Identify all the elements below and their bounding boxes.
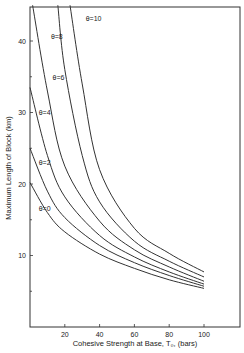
svg-text:40: 40 <box>96 331 104 338</box>
svg-text:80: 80 <box>165 331 173 338</box>
svg-text:30: 30 <box>18 109 26 116</box>
curve-label: θ=4 <box>39 109 51 116</box>
curve-θ=8 <box>58 5 204 277</box>
svg-text:10: 10 <box>18 252 26 259</box>
svg-text:40: 40 <box>18 38 26 45</box>
curve-labels: θ=0θ=2θ=4θ=6θ=8θ=10 <box>39 15 102 212</box>
svg-text:60: 60 <box>131 331 139 338</box>
curve-label: θ=2 <box>39 159 51 166</box>
axis-ticks: 2040608010010203040 <box>18 38 210 339</box>
plot-frame <box>30 7 240 327</box>
curve-label: θ=0 <box>39 205 51 212</box>
svg-text:20: 20 <box>61 331 69 338</box>
curve-θ=6 <box>33 5 204 281</box>
y-axis-label-text: Maximum Length of Block (km) <box>4 116 13 219</box>
curve-label: θ=10 <box>86 15 102 22</box>
svg-text:20: 20 <box>18 181 26 188</box>
curve-θ=0 <box>30 183 204 289</box>
curves <box>30 5 204 288</box>
chart-plot: 2040608010010203040 θ=0θ=2θ=4θ=6θ=8θ=10 <box>0 0 244 353</box>
curve-θ=10 <box>70 5 204 272</box>
x-axis-label: Cohesive Strength at Base, T₀, (bars) <box>30 339 240 348</box>
svg-text:100: 100 <box>198 331 210 338</box>
curve-label: θ=8 <box>51 33 63 40</box>
curve-label: θ=6 <box>53 74 65 81</box>
